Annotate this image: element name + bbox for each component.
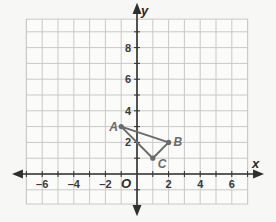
vertex-label-a: A — [108, 120, 118, 134]
y-axis-label: y — [140, 3, 149, 18]
x-tick-label: 6 — [229, 178, 235, 190]
y-tick-label: 2 — [125, 136, 131, 148]
vertex-label-c: C — [158, 157, 167, 171]
vertex-point-b — [166, 140, 171, 145]
x-tick-label: –2 — [99, 178, 111, 190]
plot-area: ABC –6–4–22462468Oxy — [0, 0, 276, 222]
x-axis-label: x — [251, 156, 260, 171]
origin-label: O — [121, 176, 131, 191]
x-tick-label: –6 — [36, 178, 48, 190]
y-tick-label: 4 — [125, 105, 132, 117]
coordinate-plane: ABC –6–4–22462468Oxy — [0, 0, 276, 222]
vertex-point-c — [150, 156, 155, 161]
x-tick-label: –4 — [68, 178, 81, 190]
y-tick-label: 8 — [125, 42, 131, 54]
y-tick-label: 6 — [125, 73, 131, 85]
vertex-label-b: B — [174, 135, 183, 149]
vertex-point-a — [119, 124, 124, 129]
x-tick-label: 4 — [197, 178, 204, 190]
x-tick-label: 2 — [166, 178, 172, 190]
